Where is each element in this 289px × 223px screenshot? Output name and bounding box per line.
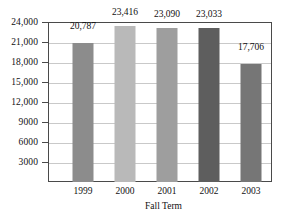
bar-value-label: 20,787 [53,21,113,32]
y-axis-label: 24,000 [11,17,38,27]
bar-2002[interactable] [198,28,219,182]
x-axis-label-2003: 2003 [225,186,277,197]
bar-slot [104,22,145,182]
y-axis-label: 3000 [19,157,38,167]
bar-value-label: 23,033 [179,9,239,20]
y-axis-label: 18,000 [11,57,38,67]
bar-slot [62,22,103,182]
bar-2000[interactable] [114,26,135,182]
x-axis-title: Fall Term [0,201,289,212]
y-axis-label: 21,000 [11,37,38,47]
y-axis-label: 12,000 [11,97,38,107]
bar-1999[interactable] [72,43,93,182]
bar-2001[interactable] [156,28,177,182]
y-axis-label: 6000 [19,137,38,147]
bar-slot [146,22,187,182]
bar-2003[interactable] [240,64,261,182]
y-axis-label: 15,000 [11,77,38,87]
bar-value-label: 17,706 [221,42,281,53]
y-axis-label: 9000 [19,117,38,127]
bar-chart: 24,000 21,000 18,000 15,000 12,000 9000 … [0,0,289,223]
